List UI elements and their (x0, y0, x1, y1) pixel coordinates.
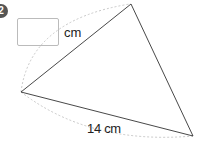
bottom-side-length-label: 14 cm (87, 121, 121, 136)
triangle (21, 4, 193, 136)
